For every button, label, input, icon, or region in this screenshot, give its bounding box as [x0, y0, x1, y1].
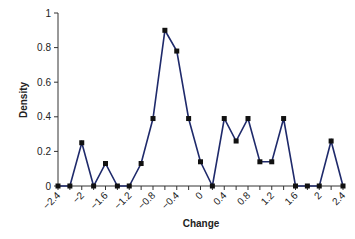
data-point-marker	[115, 184, 120, 189]
y-tick-label: 1	[45, 8, 51, 19]
density-line-chart: 00.20.40.60.81 −2.4−2−1.6−1.2−0.8−0.400.…	[0, 0, 355, 239]
y-tick-label: 0.2	[37, 146, 51, 157]
y-tick-label: 0.6	[37, 77, 51, 88]
data-point-marker	[329, 139, 334, 144]
x-tick-label: 1.6	[282, 189, 300, 207]
data-point-marker	[67, 184, 72, 189]
data-point-marker	[341, 184, 346, 189]
data-point-marker	[91, 184, 96, 189]
data-series	[56, 28, 346, 189]
y-tick-label: 0.4	[37, 111, 51, 122]
data-point-marker	[186, 116, 191, 121]
data-point-marker	[269, 159, 274, 164]
data-point-marker	[305, 184, 310, 189]
x-tick-label: 0.4	[211, 189, 229, 207]
x-tick-label: 0	[193, 189, 205, 201]
x-tick-label: −2.4	[41, 189, 63, 211]
x-tick-label: −0.8	[136, 189, 158, 211]
data-point-marker	[293, 184, 298, 189]
x-axis-title: Change	[183, 218, 220, 229]
data-point-marker	[151, 116, 156, 121]
x-tick-label: −0.4	[159, 189, 181, 211]
data-point-marker	[174, 49, 179, 54]
data-point-marker	[127, 184, 132, 189]
x-axis: −2.4−2−1.6−1.2−0.8−0.400.40.81.21.622.4	[41, 186, 348, 211]
data-point-marker	[281, 116, 286, 121]
x-tick-label: −1.2	[112, 189, 134, 211]
data-point-marker	[257, 159, 262, 164]
x-tick-label: −1.6	[88, 189, 110, 211]
data-point-marker	[139, 161, 144, 166]
data-point-marker	[317, 184, 322, 189]
data-point-marker	[162, 28, 167, 33]
x-tick-label: 1.2	[259, 189, 277, 207]
data-point-marker	[56, 184, 61, 189]
y-tick-label: 0.8	[37, 42, 51, 53]
data-point-marker	[103, 161, 108, 166]
data-point-marker	[79, 140, 84, 145]
x-tick-label: 2.4	[330, 189, 348, 207]
y-axis: 00.20.40.60.81	[37, 8, 58, 192]
x-tick-label: 0.8	[235, 189, 253, 207]
data-point-marker	[234, 139, 239, 144]
x-tick-label: −2	[70, 189, 86, 205]
y-axis-title: Density	[18, 82, 29, 119]
data-point-marker	[222, 116, 227, 121]
y-tick-label: 0	[45, 181, 51, 192]
data-point-marker	[246, 116, 251, 121]
data-point-marker	[198, 159, 203, 164]
x-tick-label: 2	[312, 189, 324, 201]
data-point-marker	[210, 184, 215, 189]
